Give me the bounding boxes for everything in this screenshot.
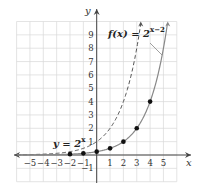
data-point bbox=[81, 151, 86, 156]
exponential-graph: −5−4−3−2−112345−1123456789 x y f(x) = 2x… bbox=[0, 0, 202, 187]
y-tick-label: 1 bbox=[88, 137, 93, 147]
y-tick-label: 6 bbox=[88, 70, 93, 80]
y-tick-label: 3 bbox=[88, 110, 93, 120]
exp-curve-dashed bbox=[17, 24, 141, 155]
f-function-label: f(x) = 2x−2 bbox=[107, 25, 165, 39]
y-tick-label: 9 bbox=[88, 30, 93, 40]
x-axis-label: x bbox=[186, 157, 192, 168]
x-tick-label: −5 bbox=[24, 158, 37, 168]
y-tick-label: −1 bbox=[81, 163, 94, 173]
x-tick-label: 4 bbox=[147, 158, 152, 168]
x-tick-label: 5 bbox=[161, 158, 166, 168]
y-tick-label: 7 bbox=[88, 57, 93, 67]
y-axis-label: y bbox=[84, 5, 91, 16]
y-tick-label: 5 bbox=[88, 83, 93, 93]
x-tick-label: 3 bbox=[134, 158, 139, 168]
x-tick-label: −3 bbox=[50, 158, 63, 168]
exp-function-label: y = 2x bbox=[52, 135, 86, 149]
f-label-main: f(x) = 2 bbox=[107, 28, 150, 39]
data-point bbox=[134, 126, 139, 131]
data-point bbox=[94, 149, 99, 154]
solid-curve-arrow-icon bbox=[165, 22, 170, 27]
x-tick-label: −2 bbox=[64, 158, 77, 168]
x-tick-label: −4 bbox=[37, 158, 50, 168]
y-tick-label: 8 bbox=[88, 43, 93, 53]
f-label-leader-line bbox=[150, 43, 162, 55]
f-label-exponent: x−2 bbox=[150, 25, 165, 34]
exp-label-exponent: x bbox=[81, 135, 86, 144]
y-tick-label: 2 bbox=[88, 123, 93, 133]
y-tick-label: 4 bbox=[88, 97, 93, 107]
data-point bbox=[108, 146, 113, 151]
exp-label-main: y = 2 bbox=[52, 138, 81, 149]
data-point bbox=[148, 99, 153, 104]
data-point bbox=[68, 152, 73, 157]
data-point bbox=[121, 139, 126, 144]
x-tick-label: 2 bbox=[121, 158, 126, 168]
x-tick-label: 1 bbox=[107, 158, 112, 168]
